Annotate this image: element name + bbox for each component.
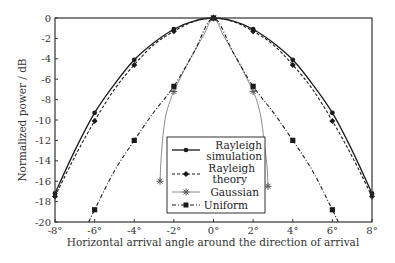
y-tick-label: -4 [41,53,51,64]
chart: -8°-6°-4°-2°0°2°4°6°8° 0-2-4-6-8-10-12-1… [0,0,395,263]
x-tick-label: 4° [287,225,298,236]
y-tick-label: -20 [35,217,51,228]
legend: Rayleigh simulation Rayleigh theory Gaus… [167,137,265,213]
star-marker-icon [183,189,190,196]
x-tick-label: 8° [366,225,377,236]
x-tick-label: 0° [208,225,219,236]
square-marker-icon [184,203,189,208]
x-tick-label: 6° [327,225,338,236]
circle-marker-icon [184,148,189,153]
y-axis-label: Normalized power / dB [16,58,28,181]
y-tick-label: -6 [41,74,51,85]
y-tick-label: -18 [35,196,51,207]
x-tick-label: -4° [127,225,142,236]
x-tick-label: 2° [247,225,258,236]
y-tick-label: -2 [41,33,51,44]
y-tick-label: 0 [45,13,51,24]
x-tick-label: -2° [167,225,182,236]
svg-text:simulation: simulation [206,150,262,162]
svg-text:Uniform: Uniform [204,199,248,211]
svg-text:theory: theory [213,173,248,185]
y-tick-label: -10 [35,115,51,126]
y-tick-label: -14 [35,155,51,166]
y-tick-label: -8 [41,94,51,105]
y-tick-label: -12 [35,135,51,146]
x-axis-label: Horizontal arrival angle around the dire… [67,236,360,248]
y-tick-label: -16 [35,176,51,187]
x-tick-label: -6° [87,225,102,236]
svg-text:Gaussian: Gaussian [210,186,259,198]
